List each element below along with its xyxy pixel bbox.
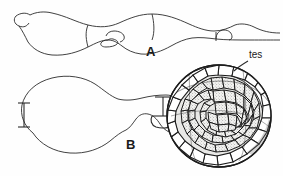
figure-illustration [0, 0, 283, 176]
faceted-sphere [166, 61, 272, 167]
figure-container: A B tes [0, 0, 283, 176]
panel-label-b: B [126, 138, 135, 151]
annotation-label-tes: tes [249, 50, 262, 60]
panel-label-a: A [146, 45, 155, 58]
scale-bar-B [18, 103, 30, 127]
panel-b-drawing [18, 76, 178, 153]
